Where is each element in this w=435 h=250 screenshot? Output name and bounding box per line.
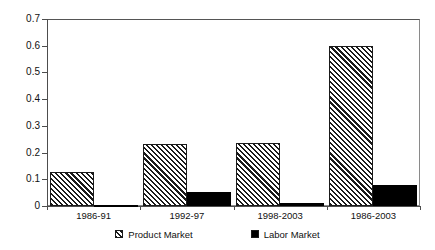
y-tick-label: 0.2	[2, 148, 40, 158]
y-tick-label: 0.4	[2, 94, 40, 104]
bar-product-market	[50, 172, 94, 206]
bar-labor-market	[280, 203, 324, 206]
legend-item-product-market: Product Market	[115, 229, 192, 240]
y-tick-label: 0.3	[2, 121, 40, 131]
y-axis-line	[47, 19, 48, 207]
bar-product-market	[236, 143, 280, 206]
x-category-label: 1986-2003	[327, 210, 420, 222]
bar-labor-market	[94, 205, 138, 207]
y-tick-mark	[42, 179, 47, 180]
chart-legend: Product Market Labor Market	[0, 226, 435, 242]
y-tick-mark	[42, 99, 47, 100]
legend-item-labor-market: Labor Market	[251, 229, 320, 240]
y-tick-label: 0.6	[2, 41, 40, 51]
y-tick-label: 0.5	[2, 67, 40, 77]
y-tick-label: 0	[2, 201, 40, 211]
y-tick-mark	[42, 46, 47, 47]
legend-label-labor-market: Labor Market	[264, 229, 320, 240]
y-tick-label: 0.7	[2, 14, 40, 24]
legend-label-product-market: Product Market	[128, 229, 192, 240]
x-category-label: 1998-2003	[234, 210, 327, 222]
filled-square-swatch-icon	[251, 230, 259, 238]
x-category-label: 1986-91	[47, 210, 140, 222]
y-tick-mark	[42, 72, 47, 73]
x-category-label: 1992-97	[140, 210, 233, 222]
y-tick-mark	[42, 153, 47, 154]
y-tick-mark	[42, 126, 47, 127]
bar-labor-market	[187, 192, 231, 206]
y-tick-mark	[42, 19, 47, 20]
bar-product-market	[329, 46, 373, 206]
bar-product-market	[143, 144, 187, 206]
bar-chart: 00.10.20.30.40.50.60.7 1986-911992-97199…	[0, 0, 435, 250]
hatched-square-swatch-icon	[115, 230, 123, 238]
y-tick-label: 0.1	[2, 174, 40, 184]
bar-labor-market	[373, 185, 417, 206]
x-tick-mark	[420, 206, 421, 210]
